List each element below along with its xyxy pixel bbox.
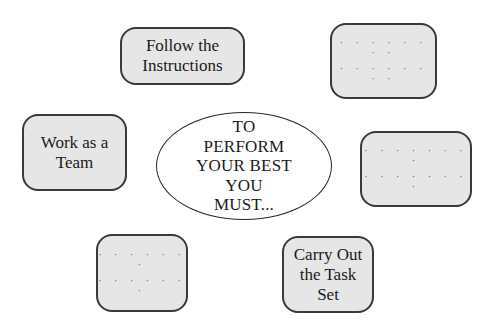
- box-follow-instructions: Follow the Instructions: [120, 27, 245, 85]
- box-blank-right: · · · · · · · · · · · · · · · ·: [360, 131, 472, 207]
- box-blank-bottom-left: · · · · · · · · · · · · · ·: [96, 234, 188, 312]
- dotted-line: · · · · · · ·: [98, 276, 186, 296]
- dotted-line: · · · · · · · ·: [332, 38, 435, 58]
- box-work-as-team: Work as a Team: [22, 114, 127, 191]
- dotted-line: · · · · · · · ·: [332, 64, 435, 84]
- dotted-line: · · · · · · · ·: [362, 172, 470, 192]
- box-label: Work as a Team: [41, 133, 109, 173]
- box-label: Carry Out the Task Set: [294, 245, 362, 305]
- center-ellipse: TO PERFORM YOUR BEST YOU MUST...: [156, 112, 332, 220]
- dotted-line: · · · · · · · ·: [362, 146, 470, 166]
- center-title: TO PERFORM YOUR BEST YOU MUST...: [196, 117, 292, 215]
- dotted-line: · · · · · · ·: [98, 250, 186, 270]
- box-label: Follow the Instructions: [142, 36, 222, 76]
- box-blank-top-right: · · · · · · · · · · · · · · · ·: [330, 23, 437, 99]
- box-carry-out-task: Carry Out the Task Set: [282, 236, 374, 313]
